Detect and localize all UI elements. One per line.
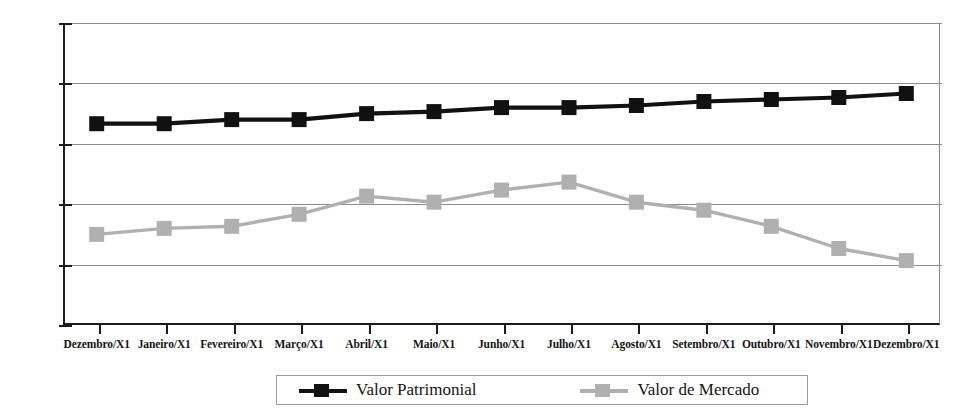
legend-entry-valor-patrimonial[interactable]: Valor Patrimonial (299, 376, 476, 404)
legend-label-valor-de-mercado: Valor de Mercado (637, 380, 759, 400)
data-point-marker[interactable] (831, 90, 846, 105)
data-point-marker[interactable] (224, 112, 239, 127)
series-valor-patrimonial (89, 86, 914, 131)
data-point-marker[interactable] (359, 106, 374, 121)
data-point-marker[interactable] (157, 221, 172, 236)
data-point-marker[interactable] (427, 104, 442, 119)
data-point-marker[interactable] (292, 207, 307, 222)
legend-label-valor-patrimonial: Valor Patrimonial (356, 380, 476, 400)
data-point-marker[interactable] (899, 86, 914, 101)
data-point-marker[interactable] (494, 100, 509, 115)
data-point-marker[interactable] (427, 195, 442, 210)
data-point-marker[interactable] (224, 219, 239, 234)
data-point-marker[interactable] (831, 241, 846, 256)
data-point-marker[interactable] (696, 203, 711, 218)
chart-legend: Valor Patrimonial Valor de Mercado (276, 375, 808, 405)
data-point-marker[interactable] (696, 94, 711, 109)
legend-swatch-square-icon (299, 381, 347, 399)
legend-entry-valor-de-mercado[interactable]: Valor de Mercado (580, 376, 759, 404)
data-point-marker[interactable] (89, 227, 104, 242)
data-point-marker[interactable] (899, 253, 914, 268)
data-point-marker[interactable] (562, 100, 577, 115)
data-point-marker[interactable] (292, 112, 307, 127)
data-point-marker[interactable] (157, 116, 172, 131)
legend-swatch-square-icon (580, 381, 628, 399)
data-point-marker[interactable] (494, 183, 509, 198)
data-point-marker[interactable] (764, 92, 779, 107)
series-layer (0, 0, 958, 415)
data-point-marker[interactable] (629, 195, 644, 210)
series-valor-de-mercado (89, 175, 914, 269)
data-point-marker[interactable] (764, 219, 779, 234)
data-point-marker[interactable] (629, 98, 644, 113)
chart-container: . 2,502,201,901,601,301,00 Dezembro/X1Ja… (0, 0, 958, 415)
data-point-marker[interactable] (359, 189, 374, 204)
data-point-marker[interactable] (89, 116, 104, 131)
data-point-marker[interactable] (562, 175, 577, 190)
